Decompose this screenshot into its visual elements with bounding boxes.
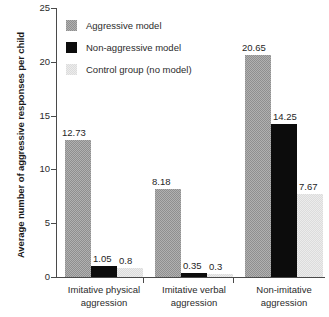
legend-item: Aggressive model <box>66 16 246 38</box>
bar-value-label: 0.8 <box>119 255 132 266</box>
bar <box>245 55 271 277</box>
bar-value-label: 7.67 <box>299 181 318 192</box>
x-axis-category-label: Imitative verbalaggression <box>147 283 241 309</box>
x-axis-category-line: Imitative physical <box>57 283 151 296</box>
bar <box>65 140 91 277</box>
chart-legend: Aggressive modelNon-aggressive modelCont… <box>66 16 246 82</box>
x-axis-category-line: aggression <box>57 296 151 309</box>
bar <box>91 266 117 277</box>
x-axis-category-line: aggression <box>147 296 241 309</box>
bar-value-label: 0.3 <box>209 261 222 272</box>
x-axis-category-labels: Imitative physicalaggressionImitative ve… <box>57 283 325 317</box>
legend-label: Aggressive model <box>86 17 162 34</box>
legend-item: Non-aggressive model <box>66 38 246 60</box>
legend-item: Control group (no model) <box>66 60 246 82</box>
legend-label: Non-aggressive model <box>86 39 181 56</box>
x-axis-category-line: Imitative verbal <box>147 283 241 296</box>
y-axis-ticks: 2520151050 <box>22 8 56 284</box>
bar <box>207 274 233 277</box>
legend-swatch-control <box>66 64 77 75</box>
y-axis-tick: 10 <box>22 163 56 175</box>
bar <box>117 268 143 277</box>
legend-label: Control group (no model) <box>86 61 192 78</box>
y-axis-tick: 20 <box>22 56 56 68</box>
x-axis-line <box>56 277 325 278</box>
x-axis-category-line: aggression <box>237 296 329 309</box>
bar-chart-figure: Average number of aggressive responses p… <box>0 0 329 317</box>
bar <box>181 273 207 277</box>
bar <box>271 124 297 277</box>
legend-swatch-aggressive <box>66 20 77 31</box>
y-axis-tick: 25 <box>22 2 56 14</box>
legend-swatch-nonaggressive <box>66 42 77 53</box>
y-axis-tick: 5 <box>22 217 56 229</box>
x-axis-category-label: Non-imitativeaggression <box>237 283 329 309</box>
bar-value-label: 12.73 <box>62 127 86 138</box>
x-axis-category-label: Imitative physicalaggression <box>57 283 151 309</box>
bar-group: 20.6514.257.67 <box>245 8 323 277</box>
bar <box>155 189 181 277</box>
bar <box>297 194 323 277</box>
y-axis-tick: 15 <box>22 110 56 122</box>
y-axis-tick: 0 <box>22 271 56 283</box>
x-axis-category-line: Non-imitative <box>237 283 329 296</box>
bar-value-label: 8.18 <box>152 176 171 187</box>
bar-value-label: 1.05 <box>93 253 112 264</box>
bar-value-label: 14.25 <box>273 111 297 122</box>
bar-value-label: 0.35 <box>183 260 202 271</box>
